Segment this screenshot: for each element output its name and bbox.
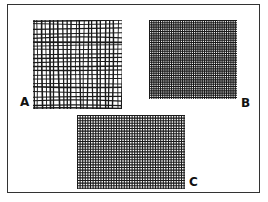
- mesh-panel-c: [77, 115, 185, 189]
- mesh-panel-b: [149, 20, 237, 99]
- panel-label-a: A: [20, 96, 29, 108]
- mesh-graphic: [149, 20, 237, 99]
- mesh-graphic: [33, 20, 122, 109]
- panel-label-c: C: [189, 176, 198, 188]
- panel-label-b: B: [241, 97, 250, 109]
- mesh-graphic: [77, 115, 185, 189]
- mesh-panel-a: [33, 20, 122, 109]
